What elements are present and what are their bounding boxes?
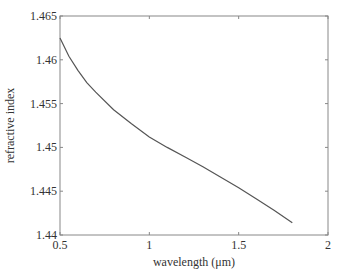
x-tick-label: 1.5 — [231, 238, 246, 252]
y-tick-label: 1.465 — [30, 9, 57, 23]
x-axis-label: wavelength (μm) — [153, 255, 235, 269]
y-tick-label: 1.45 — [36, 140, 57, 154]
y-tick-label: 1.455 — [30, 97, 57, 111]
data-line — [60, 38, 292, 223]
y-tick-label: 1.44 — [36, 228, 57, 242]
chart: 0.511.521.441.4451.451.4551.461.465wavel… — [0, 0, 340, 277]
y-tick-label: 1.46 — [36, 53, 57, 67]
y-tick-label: 1.445 — [30, 184, 57, 198]
y-axis-label: refractive index — [3, 88, 17, 164]
x-tick-label: 1 — [146, 238, 152, 252]
plot-frame — [60, 16, 328, 235]
x-tick-label: 2 — [325, 238, 331, 252]
